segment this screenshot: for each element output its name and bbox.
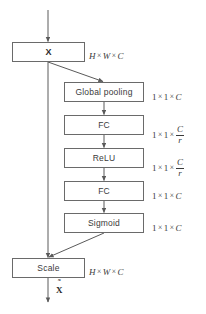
times-icon: × (170, 191, 174, 200)
node-fc-2[interactable]: FC (64, 181, 144, 201)
fraction-c-over-r: C r (176, 158, 184, 178)
dim-relu-numer: C (176, 158, 184, 168)
dim-fc2-1: 1 (152, 191, 157, 201)
dim-fc2-c: C (175, 191, 181, 201)
se-block-diagram: X H × W × C Global pooling 1 × 1 × C FC … (0, 0, 206, 314)
times-icon: × (170, 130, 174, 139)
dim-label-fc-2: 1 × 1 × C (152, 191, 181, 201)
times-icon: × (158, 92, 162, 101)
dim-gp-2: 1 (164, 92, 169, 102)
node-scale-label: Scale (37, 263, 59, 273)
dim-sig-c: C (175, 223, 181, 233)
node-sigmoid[interactable]: Sigmoid (64, 213, 144, 233)
times-icon: × (112, 267, 116, 276)
times-icon: × (158, 163, 162, 172)
times-icon: × (158, 130, 162, 139)
dim-scale-h: H (89, 267, 96, 277)
dim-fc1-1: 1 (152, 130, 157, 140)
dim-input-w: W (103, 51, 111, 61)
node-global-pooling[interactable]: Global pooling (64, 82, 144, 102)
dim-label-input: H × W × C (89, 51, 123, 61)
node-input-x[interactable]: X (12, 42, 85, 62)
fraction-c-over-r: C r (176, 125, 184, 145)
edge-sigmoid-to-scale (49, 233, 104, 257)
times-icon: × (97, 51, 101, 60)
node-fc-1-label: FC (98, 120, 110, 130)
times-icon: × (170, 92, 174, 101)
dim-label-sigmoid: 1 × 1 × C (152, 223, 181, 233)
dim-scale-c: C (117, 267, 123, 277)
dim-sig-1: 1 (152, 223, 157, 233)
node-scale[interactable]: Scale (12, 258, 85, 278)
node-global-pooling-label: Global pooling (75, 87, 132, 97)
times-icon: × (97, 267, 101, 276)
node-input-x-label: X (45, 47, 51, 57)
dim-label-global-pooling: 1 × 1 × C (152, 92, 181, 102)
dim-gp-1: 1 (152, 92, 157, 102)
dim-input-h: H (89, 51, 96, 61)
node-relu[interactable]: ReLU (64, 148, 144, 168)
node-relu-label: ReLU (93, 153, 116, 163)
dim-input-c: C (117, 51, 123, 61)
dim-scale-w: W (103, 267, 111, 277)
dim-relu-1: 1 (152, 163, 157, 173)
dim-fc2-2: 1 (164, 191, 169, 201)
dim-fc1-2: 1 (164, 130, 169, 140)
dim-relu-2: 1 (164, 163, 169, 173)
node-sigmoid-label: Sigmoid (88, 218, 120, 228)
dim-label-fc-1: 1 × 1 × C r (152, 125, 184, 145)
output-symbol: X (56, 286, 63, 295)
dim-gp-c: C (175, 92, 181, 102)
node-fc-2-label: FC (98, 186, 110, 196)
times-icon: × (158, 223, 162, 232)
times-icon: × (170, 163, 174, 172)
dim-fc1-numer: C (176, 125, 184, 135)
node-fc-1[interactable]: FC (64, 115, 144, 135)
times-icon: × (170, 223, 174, 232)
output-label-x-tilde: ˜ X (56, 282, 63, 295)
edge-x-to-global-pooling (48, 62, 103, 82)
dim-relu-denom: r (177, 169, 183, 179)
times-icon: × (112, 51, 116, 60)
times-icon: × (158, 191, 162, 200)
dim-sig-2: 1 (164, 223, 169, 233)
dim-label-relu: 1 × 1 × C r (152, 158, 184, 178)
dim-label-scale: H × W × C (89, 267, 123, 277)
dim-fc1-denom: r (177, 136, 183, 146)
